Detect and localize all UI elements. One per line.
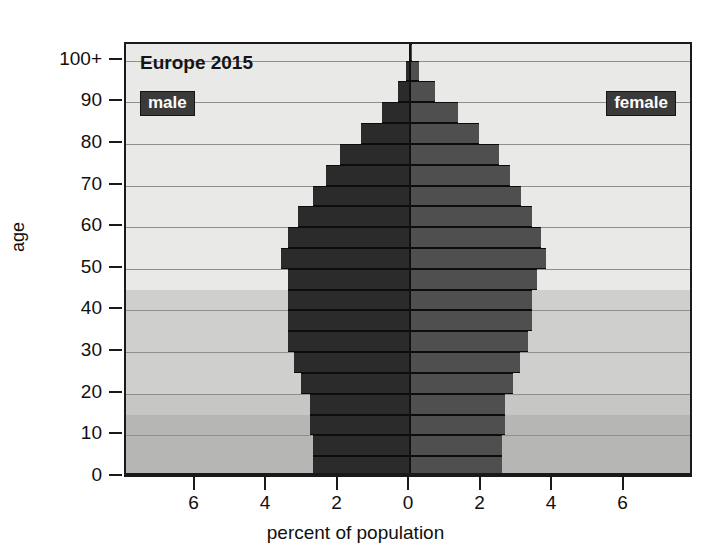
y-tick-label: 20	[0, 381, 102, 403]
chart-title: Europe 2015	[140, 52, 253, 74]
bar-female	[410, 165, 510, 186]
bar-male	[313, 186, 410, 207]
bar-female	[410, 310, 532, 331]
y-tick-mark	[109, 391, 122, 393]
y-tick-label: 90	[0, 89, 102, 111]
bar-male	[310, 394, 410, 415]
bar-female	[410, 290, 532, 311]
bar-male	[298, 206, 410, 227]
chart-canvas: age 0102030405060708090100+ Europe 2015 …	[0, 0, 711, 558]
y-tick-mark	[109, 474, 122, 476]
bar-female	[410, 102, 458, 123]
bar-female	[410, 269, 537, 290]
bar-female	[410, 352, 520, 373]
x-tick-label: 0	[403, 492, 414, 514]
zero-axis-line	[409, 44, 411, 473]
bar-female	[410, 394, 505, 415]
bar-female	[410, 144, 499, 165]
y-tick-mark	[109, 141, 122, 143]
bar-male	[281, 248, 410, 269]
y-tick-label: 40	[0, 297, 102, 319]
y-tick-label: 50	[0, 256, 102, 278]
legend-badge-female: female	[606, 91, 676, 116]
bar-female	[410, 61, 419, 82]
y-tick-label: 70	[0, 173, 102, 195]
bar-female	[410, 186, 521, 207]
x-tick-label: 6	[617, 492, 628, 514]
legend-badge-male: male	[140, 91, 195, 116]
bar-male	[361, 123, 410, 144]
bar-female	[410, 248, 546, 269]
x-tick-label: 2	[474, 492, 485, 514]
bar-male	[313, 456, 410, 475]
y-tick-label: 100+	[0, 48, 102, 70]
y-tick-label: 10	[0, 422, 102, 444]
x-tick-label: 6	[188, 492, 199, 514]
bar-female	[410, 373, 513, 394]
y-tick-label: 80	[0, 131, 102, 153]
bar-male	[326, 165, 410, 186]
x-axis-title: percent of population	[0, 522, 711, 544]
y-tick-mark	[109, 432, 122, 434]
bar-female	[410, 227, 541, 248]
y-tick-mark	[109, 307, 122, 309]
y-tick-mark	[109, 183, 122, 185]
x-tick-mark	[193, 477, 195, 490]
x-tick-mark	[264, 477, 266, 490]
bar-male	[313, 435, 410, 456]
x-tick-label: 4	[546, 492, 557, 514]
bar-male	[288, 331, 410, 352]
bar-male	[382, 102, 410, 123]
bar-male	[288, 227, 410, 248]
bar-male	[288, 290, 410, 311]
x-tick-label: 4	[260, 492, 271, 514]
bar-female	[410, 456, 502, 475]
x-tick-label: 2	[331, 492, 342, 514]
y-tick-mark	[109, 224, 122, 226]
x-tick-mark	[550, 477, 552, 490]
bar-female	[410, 123, 479, 144]
y-tick-label: 60	[0, 214, 102, 236]
y-tick-label: 30	[0, 339, 102, 361]
bar-male	[294, 352, 410, 373]
bar-male	[340, 144, 410, 165]
x-tick-mark	[479, 477, 481, 490]
bar-female	[410, 206, 532, 227]
bar-female	[410, 435, 502, 456]
bar-male	[310, 415, 410, 436]
bar-female	[410, 81, 435, 102]
x-tick-mark	[622, 477, 624, 490]
bar-male	[301, 373, 410, 394]
x-tick-mark	[407, 477, 409, 490]
y-tick-mark	[109, 58, 122, 60]
y-tick-mark	[109, 349, 122, 351]
x-tick-mark	[336, 477, 338, 490]
bar-female	[410, 331, 528, 352]
bar-male	[288, 269, 410, 290]
plot-area: Europe 2015 male female	[124, 42, 692, 475]
y-tick-mark	[109, 99, 122, 101]
bar-male	[288, 310, 410, 331]
y-tick-mark	[109, 266, 122, 268]
y-tick-label: 0	[0, 464, 102, 486]
bar-female	[410, 415, 505, 436]
